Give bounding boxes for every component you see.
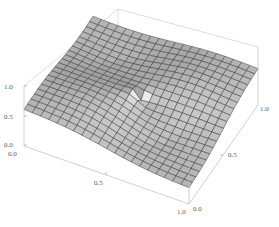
- surface-plot: 1.0 0.5 0.0 0.0 0.5 1.0 0.0 0.5 1.0: [0, 0, 279, 227]
- x-tick-0.5: 0.5: [94, 179, 103, 187]
- surface-mesh: [24, 16, 258, 188]
- y-tick-0.5: 0.5: [228, 151, 237, 159]
- z-tick-0.0: 0.0: [4, 141, 13, 149]
- x-tick-0.0: 0.0: [8, 150, 17, 158]
- y-tick-0.0: 0.0: [193, 205, 202, 213]
- z-tick-1.0: 1.0: [4, 83, 13, 91]
- y-tick-1.0: 1.0: [260, 105, 269, 113]
- x-tick-1.0: 1.0: [177, 208, 186, 216]
- z-tick-0.5: 0.5: [4, 113, 13, 121]
